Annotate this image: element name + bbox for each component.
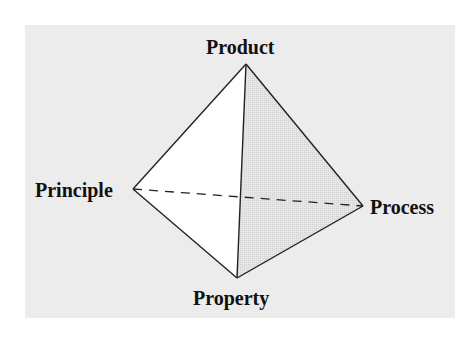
vertex-label-principle: Principle	[35, 180, 113, 200]
vertex-label-process: Process	[370, 197, 434, 217]
shaded-face	[237, 64, 363, 278]
vertex-label-property: Property	[193, 288, 269, 308]
vertex-label-product: Product	[206, 37, 275, 57]
